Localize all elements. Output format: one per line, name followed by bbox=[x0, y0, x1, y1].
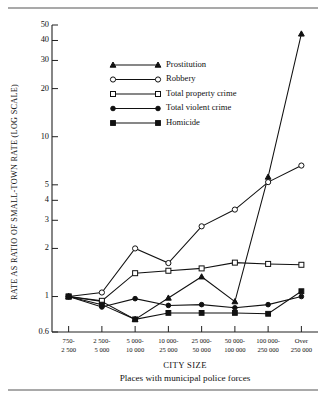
legend-item-total-violent-crime[interactable]: Total violent crime bbox=[111, 102, 232, 112]
x-tick-label: 50 000- bbox=[225, 337, 245, 344]
data-point-marker bbox=[232, 260, 237, 265]
data-point-marker bbox=[233, 306, 238, 311]
data-point-marker bbox=[166, 268, 171, 273]
data-point-marker bbox=[232, 207, 237, 212]
data-point-marker bbox=[199, 266, 204, 271]
data-point-marker bbox=[199, 274, 205, 279]
x-tick-label: 10 000 bbox=[126, 346, 145, 353]
data-point-marker bbox=[266, 261, 271, 266]
data-point-marker bbox=[133, 271, 138, 276]
data-point-marker bbox=[199, 224, 204, 229]
data-point-marker bbox=[99, 290, 104, 295]
data-point-marker bbox=[166, 260, 171, 265]
data-point-marker bbox=[111, 106, 116, 111]
x-tick-label: 100 000 bbox=[224, 346, 246, 353]
data-point-marker bbox=[156, 121, 161, 126]
data-point-marker bbox=[66, 294, 71, 299]
data-point-marker bbox=[166, 311, 171, 316]
data-point-marker bbox=[133, 296, 138, 301]
y-tick-label: 4 bbox=[45, 195, 50, 204]
data-point-marker bbox=[156, 106, 161, 111]
x-tick-marks: 750-2 5002 500-5 0005 000-10 00010 000-2… bbox=[61, 326, 313, 353]
data-point-marker bbox=[166, 303, 171, 308]
data-point-marker bbox=[111, 121, 116, 126]
y-tick-label: 20 bbox=[41, 84, 49, 93]
x-tick-label: 2 500 bbox=[61, 346, 77, 353]
data-point-marker bbox=[266, 311, 271, 316]
y-tick-label: 30 bbox=[41, 55, 49, 64]
x-axis-title: CITY SIZE bbox=[163, 360, 207, 370]
y-tick-label: 3 bbox=[45, 215, 49, 224]
data-point-marker bbox=[299, 289, 304, 294]
y-tick-label: 1 bbox=[45, 291, 49, 300]
legend-label: Total violent crime bbox=[166, 102, 231, 112]
data-point-marker bbox=[199, 311, 204, 316]
data-point-marker bbox=[155, 77, 160, 82]
x-tick-label: 50 000 bbox=[193, 346, 212, 353]
chart-legend: ProstitutionRobberyTotal property crimeT… bbox=[110, 59, 237, 127]
legend-label: Robbery bbox=[166, 73, 196, 83]
series-robbery bbox=[66, 163, 304, 299]
x-tick-label: 25 000 bbox=[159, 346, 178, 353]
data-point-marker bbox=[232, 299, 238, 304]
x-tick-label: 250 000 bbox=[291, 346, 313, 353]
data-point-marker bbox=[265, 174, 271, 179]
x-tick-label: 10 000- bbox=[158, 337, 178, 344]
data-point-marker bbox=[99, 302, 104, 307]
legend-item-total-property-crime[interactable]: Total property crime bbox=[111, 88, 237, 98]
x-tick-label: 5 000- bbox=[127, 337, 144, 344]
data-point-marker bbox=[266, 302, 271, 307]
legend-item-robbery[interactable]: Robbery bbox=[110, 73, 196, 83]
data-point-marker bbox=[199, 302, 204, 307]
y-tick-label: 40 bbox=[41, 35, 49, 44]
x-tick-label: 250 000 bbox=[257, 346, 279, 353]
y-tick-label: 10 bbox=[41, 132, 49, 141]
data-point-marker bbox=[133, 317, 138, 322]
data-point-marker bbox=[110, 77, 115, 82]
data-point-marker bbox=[111, 92, 116, 97]
x-tick-label: 5 000 bbox=[94, 346, 110, 353]
data-point-marker bbox=[266, 180, 271, 185]
x-tick-label: 2 500- bbox=[93, 337, 110, 344]
x-tick-label: 750- bbox=[63, 337, 75, 344]
series-total-property-crime bbox=[66, 260, 304, 303]
y-tick-label: 2 bbox=[45, 243, 49, 252]
x-tick-label: 100 000- bbox=[256, 337, 280, 344]
y-tick-label: 5 bbox=[45, 180, 49, 189]
legend-item-homicide[interactable]: Homicide bbox=[111, 117, 200, 127]
data-point-marker bbox=[299, 262, 304, 267]
data-point-marker bbox=[156, 92, 161, 97]
y-tick-label: 0.6 bbox=[39, 327, 49, 336]
y-axis-title: RATE AS RATIO OF SMALL-TOWN RATE (LOG SC… bbox=[10, 84, 19, 300]
data-point-marker bbox=[232, 311, 237, 316]
x-axis-subtitle: Places with municipal police forces bbox=[120, 373, 251, 383]
data-point-marker bbox=[298, 31, 304, 36]
legend-item-prostitution[interactable]: Prostitution bbox=[110, 59, 207, 69]
line-chart: 0.6123451020304050 750-2 5002 500-5 0005… bbox=[0, 0, 326, 398]
data-point-marker bbox=[299, 294, 304, 299]
legend-label: Prostitution bbox=[166, 59, 207, 69]
data-point-marker bbox=[133, 246, 138, 251]
x-tick-label: 25 000- bbox=[191, 337, 211, 344]
x-tick-label: Over bbox=[295, 337, 309, 344]
chart-figure: 0.6123451020304050 750-2 5002 500-5 0005… bbox=[0, 0, 326, 398]
legend-label: Total property crime bbox=[166, 88, 237, 98]
y-tick-marks: 0.6123451020304050 bbox=[39, 20, 58, 336]
legend-label: Homicide bbox=[166, 117, 200, 127]
data-point-marker bbox=[165, 295, 171, 300]
data-point-marker bbox=[299, 163, 304, 168]
y-tick-label: 50 bbox=[41, 20, 49, 29]
